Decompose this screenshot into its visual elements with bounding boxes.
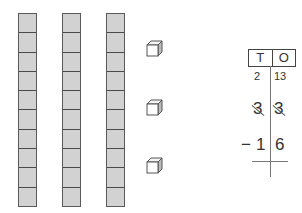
subtrahend-ones: 6 [275,135,284,155]
ones-header: O [273,50,296,66]
minus-sign: − [241,135,251,155]
unit-cube-icon [145,39,165,59]
answer-line [252,161,288,162]
regrouped-ones: 13 [274,70,286,82]
tens-rod-3 [106,13,125,207]
tens-rod-2 [62,13,81,207]
subtrahend-tens: 1 [256,135,265,155]
unit-cube-icon [145,98,165,118]
tens-rod-1 [18,13,37,207]
regrouped-tens: 2 [254,70,260,82]
tens-header: T [249,50,273,66]
unit-cube-icon [145,156,165,176]
place-value-header: T O [248,49,296,67]
